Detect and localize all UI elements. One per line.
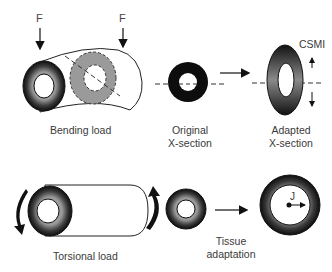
- tissue-adaptation-caption: Tissue adaptation: [206, 235, 256, 261]
- polar-adapted-ring: [260, 175, 320, 235]
- bending-end-ring: [23, 61, 65, 111]
- csmi-label: CSMI: [299, 38, 325, 51]
- original-caption-line1: Original: [168, 124, 212, 137]
- original-caption-line2: X-section: [168, 137, 212, 150]
- torsion-end-ring: [28, 186, 72, 236]
- original-ring: [168, 62, 208, 102]
- bending-load-caption: Bending load: [50, 124, 111, 137]
- torsion-arrow-left: [14, 189, 28, 235]
- torsional-load-caption: Torsional load: [53, 250, 118, 263]
- original-caption: Original X-section: [168, 124, 212, 150]
- tissue-caption-line1: Tissue: [206, 235, 256, 248]
- force-label-right: F: [119, 12, 126, 24]
- force-label-left: F: [36, 12, 43, 24]
- polar-moment-label: J: [290, 190, 295, 203]
- tissue-caption-line2: adaptation: [206, 248, 256, 261]
- adapted-ellipse: [267, 45, 303, 115]
- bending-section-shaded: [70, 52, 116, 104]
- torsion-original-ring: [166, 189, 206, 229]
- adapted-caption-line2: X-section: [268, 137, 314, 150]
- adapted-caption-line1: Adapted: [268, 124, 314, 137]
- adapted-caption: Adapted X-section: [268, 124, 314, 150]
